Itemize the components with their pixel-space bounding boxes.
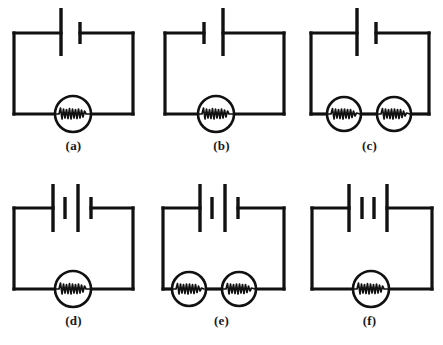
bulb-symbol-a1 — [55, 96, 91, 132]
circuit-diagram-a: (a) — [0, 0, 147, 172]
battery-symbol-c — [357, 8, 376, 56]
circuit-label-b: (b) — [148, 138, 295, 154]
bulb-symbol-b1 — [198, 96, 234, 132]
circuit-c-drawing — [296, 0, 443, 140]
battery-symbol-a — [61, 8, 80, 56]
circuit-label-e: (e) — [148, 313, 295, 329]
battery-symbol-d — [53, 184, 91, 232]
circuit-e-drawing — [148, 173, 295, 313]
bulb-symbol-d1 — [55, 271, 91, 307]
bulb-symbol-f1 — [353, 271, 389, 307]
battery-symbol-b — [204, 8, 223, 56]
circuit-label-d: (d) — [0, 313, 147, 329]
circuit-label-a: (a) — [0, 138, 147, 154]
circuit-diagram-f: (f) — [296, 173, 443, 345]
bulb-symbol-e1 — [172, 272, 206, 306]
battery-symbol-f — [349, 184, 387, 232]
circuit-figure-sheet: (a) (b) — [0, 0, 443, 345]
circuit-diagram-d: (d) — [0, 173, 147, 345]
battery-symbol-e — [200, 184, 238, 232]
circuit-diagram-e: (e) — [148, 173, 295, 345]
circuit-b-drawing — [148, 0, 295, 140]
circuit-label-f: (f) — [296, 313, 443, 329]
circuit-d-drawing — [0, 173, 147, 313]
circuit-diagram-c: (c) — [296, 0, 443, 172]
circuit-a-drawing — [0, 0, 147, 140]
circuit-diagram-b: (b) — [148, 0, 295, 172]
circuit-c-wires — [311, 33, 429, 114]
bulb-symbol-c2 — [377, 97, 411, 131]
circuit-f-drawing — [296, 173, 443, 313]
circuit-label-c: (c) — [296, 138, 443, 154]
bulb-symbol-e2 — [222, 272, 256, 306]
bulb-symbol-c1 — [327, 97, 361, 131]
